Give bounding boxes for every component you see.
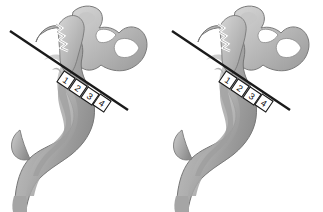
- anatomical-figure: 1 2 3 4: [0, 0, 323, 212]
- panel-left: 1 2 3 4: [0, 0, 161, 212]
- panel-right: 1 2 3 4: [162, 0, 323, 212]
